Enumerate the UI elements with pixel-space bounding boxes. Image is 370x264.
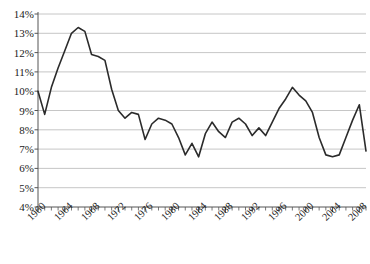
x-axis-labels: 1960196419681972197619801984198819921996… <box>0 0 370 264</box>
x-axis-tick-label: 1968 <box>79 200 102 223</box>
x-axis-tick-label: 1984 <box>186 200 209 223</box>
x-axis-tick-label: 1980 <box>159 200 182 223</box>
x-axis-tick-label: 1976 <box>132 200 155 223</box>
x-axis-tick-label: 1988 <box>212 200 235 223</box>
x-axis-tick-label: 2000 <box>293 200 316 223</box>
x-axis-tick-label: 1960 <box>25 200 48 223</box>
x-axis-tick-label: 2004 <box>320 200 343 223</box>
x-axis-tick-label: 1972 <box>105 200 128 223</box>
x-axis-tick-label: 1992 <box>239 200 262 223</box>
line-chart: 14%13%12%11%10%9%8%7%6%5%4% 196019641968… <box>0 0 370 264</box>
x-axis-tick-label: 1996 <box>266 200 289 223</box>
x-axis-tick-label: 2008 <box>346 200 369 223</box>
x-axis-tick-label: 1964 <box>52 200 75 223</box>
